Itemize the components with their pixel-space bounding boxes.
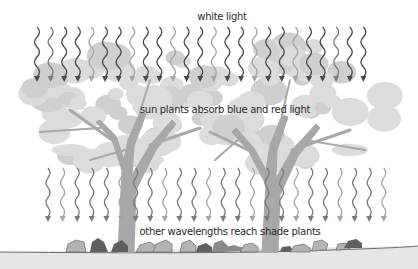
wavy-arrow-icon xyxy=(162,168,168,222)
wavy-arrow-icon xyxy=(381,168,387,222)
wavy-arrow-icon xyxy=(60,168,66,222)
wavy-arrow-icon xyxy=(89,168,95,222)
leaf-cluster xyxy=(108,88,124,100)
wavy-arrow-icon xyxy=(337,168,343,222)
leaf-cluster xyxy=(22,78,49,98)
shade-plant-icon xyxy=(312,240,328,251)
shade-plants xyxy=(66,238,362,252)
shade-plant-icon xyxy=(290,244,310,252)
wavy-arrow-icon xyxy=(366,168,372,222)
leaf-cluster xyxy=(332,98,369,126)
wavy-arrow-icon xyxy=(74,168,80,222)
shade-plant-icon xyxy=(66,240,86,252)
wavy-arrow-icon xyxy=(308,168,314,222)
leaf-cluster xyxy=(70,97,87,110)
white-light-label: white light xyxy=(197,11,246,22)
shade-plant-icon xyxy=(136,242,156,252)
wavy-arrow-icon xyxy=(220,168,226,222)
wavy-arrow-icon xyxy=(360,27,366,82)
leaf-cluster xyxy=(310,83,336,103)
wavy-arrow-icon xyxy=(206,168,212,222)
shade-plant-icon xyxy=(180,240,196,252)
leaf-cluster xyxy=(367,82,403,110)
wavy-arrow-icon xyxy=(103,168,109,222)
wavy-arrow-icon xyxy=(293,168,299,222)
shade-plant-icon xyxy=(344,239,362,248)
wavy-arrow-icon xyxy=(322,168,328,222)
wavy-arrow-icon xyxy=(45,168,51,222)
wavy-arrow-icon xyxy=(235,168,241,222)
shade-plants-label: other wavelengths reach shade plants xyxy=(140,226,321,237)
wavy-arrow-icon xyxy=(249,168,255,222)
leaf-cluster xyxy=(52,144,88,156)
wavy-arrow-icon xyxy=(176,168,182,222)
wavy-arrow-icon xyxy=(147,168,153,222)
wavy-arrow-icon xyxy=(184,27,190,82)
wavy-arrow-icon xyxy=(238,27,244,82)
wavy-arrow-icon xyxy=(352,168,358,222)
shade-plant-icon xyxy=(196,243,212,252)
shade-plant-icon xyxy=(153,240,172,252)
filtered-light-arrows xyxy=(45,168,387,222)
sun-plants-label: sun plants absorb blue and red light xyxy=(140,104,310,115)
shade-plant-icon xyxy=(90,238,108,252)
leaf-cluster xyxy=(299,53,328,76)
shade-plant-icon xyxy=(240,243,258,252)
wavy-arrow-icon xyxy=(191,168,197,222)
leaf-cluster xyxy=(44,98,61,111)
